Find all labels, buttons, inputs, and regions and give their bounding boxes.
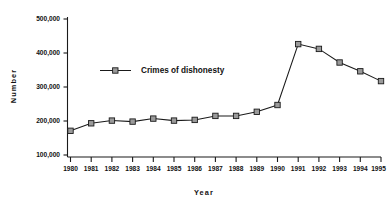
x-tick-label-1986: 1986 [187,165,202,172]
data-point-1992 [316,46,321,51]
x-tick-label-1984: 1984 [146,165,161,172]
x-tick-label-1983: 1983 [125,165,140,172]
data-point-1990 [275,102,280,107]
data-point-1983 [130,119,135,124]
data-point-1986 [192,117,197,122]
data-point-1994 [358,69,363,74]
legend-label-crimes-of-dishonesty: Crimes of dishonesty [141,66,225,75]
x-tick-label-1995: 1995 [371,165,386,172]
x-tick-label-1987: 1987 [208,165,223,172]
y-tick-label-200000: 200,000 [36,117,60,125]
line-chart-figure: 500,000 400,000 300,000 200,000 100,000 … [0,0,389,205]
x-tick-label-1982: 1982 [105,165,120,172]
y-tick-label-100000: 100,000 [36,151,60,159]
x-tick-label-1994: 1994 [353,165,368,172]
x-tick-label-1981: 1981 [84,165,99,172]
x-tick-label-1980: 1980 [63,165,78,172]
x-tick-label-1985: 1985 [167,165,182,172]
data-point-1988 [233,113,238,118]
x-tick-label-1990: 1990 [270,165,285,172]
data-point-1991 [296,41,301,46]
data-point-1982 [109,118,114,123]
x-tick-label-1991: 1991 [291,165,306,172]
x-tick-label-1993: 1993 [332,165,347,172]
legend-marker-icon [113,68,118,73]
y-axis-title: Number [9,69,18,104]
x-tick-label-1989: 1989 [249,165,264,172]
data-point-1985 [171,118,176,123]
x-tick-label-1988: 1988 [229,165,244,172]
chart-background [0,0,389,205]
y-tick-label-400000: 400,000 [36,49,60,57]
x-axis-title: Year [194,188,214,197]
y-tick-label-300000: 300,000 [36,83,60,91]
y-tick-label-500000: 500,000 [36,15,60,23]
data-point-1989 [254,109,259,114]
data-point-1980 [68,128,73,133]
data-point-1993 [337,60,342,65]
x-tick-label-1992: 1992 [312,165,327,172]
data-point-1995 [378,78,383,83]
data-point-1984 [151,116,156,121]
data-point-1987 [213,113,218,118]
chart-canvas: 500,000 400,000 300,000 200,000 100,000 … [0,0,389,205]
data-point-1981 [89,121,94,126]
